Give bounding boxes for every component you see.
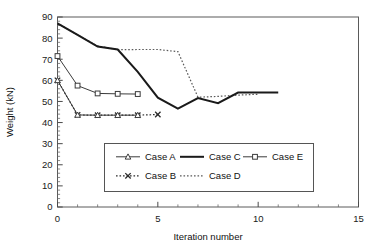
y-tick-label-0: 0 [47,201,52,212]
series-line-case-b [58,80,158,115]
chart-container: 0102030405060708090051015Iteration numbe… [0,0,372,249]
legend-marker-case-e [253,154,258,159]
y-axis-title: Weight (kN) [4,87,15,137]
y-tick-label-10: 10 [42,180,53,191]
data-point-case-e-3 [115,91,120,96]
legend-label-case-c: Case C [209,151,241,162]
x-tick-label-15: 15 [353,213,364,224]
y-tick-label-50: 50 [42,96,53,107]
legend-label-case-d: Case D [209,170,241,181]
x-tick-label-0: 0 [55,213,60,224]
x-axis-title: Iteration number [173,231,242,242]
y-tick-label-70: 70 [42,54,53,65]
legend-label-case-e: Case E [272,151,303,162]
y-tick-label-80: 80 [42,33,53,44]
x-tick-label-10: 10 [253,213,264,224]
data-point-case-b-5 [155,112,160,117]
x-tick-label-5: 5 [155,213,160,224]
series-line-case-d [58,23,259,97]
series-line-case-a [58,80,138,115]
series-line-case-e [58,56,138,94]
y-tick-label-30: 30 [42,138,53,149]
legend-label-case-a: Case A [145,151,176,162]
y-tick-label-40: 40 [42,117,53,128]
data-point-case-e-1 [75,83,80,88]
data-point-case-e-2 [95,91,100,96]
data-point-case-e-0 [55,54,60,59]
y-tick-label-20: 20 [42,159,53,170]
series-line-case-c [58,23,279,108]
line-chart: 0102030405060708090051015Iteration numbe… [0,0,372,249]
y-tick-label-60: 60 [42,75,53,86]
legend-label-case-b: Case B [145,170,176,181]
data-point-case-e-4 [135,92,140,97]
y-tick-label-90: 90 [42,11,53,22]
